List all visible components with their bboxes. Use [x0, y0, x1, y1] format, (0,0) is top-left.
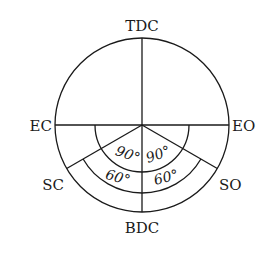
valve-timing-diagram: TDC BDC EC EO SC SO 90° 90° 60° 60° [0, 0, 277, 257]
label-ec: EC [30, 117, 52, 135]
angle-right-inner: 90° [144, 142, 173, 166]
label-so: SO [219, 176, 242, 194]
angle-left-inner: 90° [114, 142, 143, 166]
label-tdc: TDC [125, 17, 159, 35]
label-eo: EO [232, 117, 255, 135]
label-sc: SC [42, 176, 64, 194]
label-bdc: BDC [125, 219, 160, 237]
